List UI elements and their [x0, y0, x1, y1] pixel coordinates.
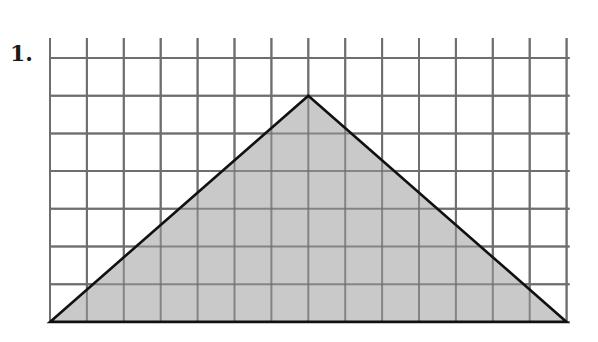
grid-triangle-diagram	[0, 0, 598, 342]
